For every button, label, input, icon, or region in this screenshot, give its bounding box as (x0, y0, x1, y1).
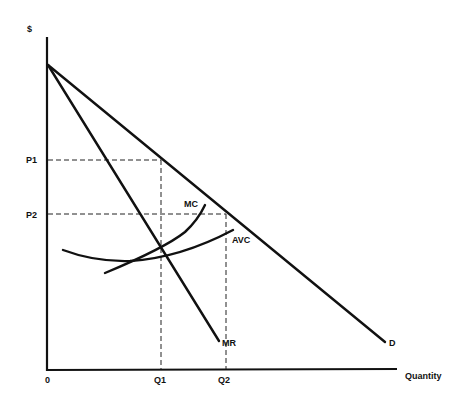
q2-label: Q2 (218, 375, 230, 385)
p1-label: P1 (26, 155, 37, 165)
p2-label: P2 (26, 210, 37, 220)
origin-label: 0 (45, 375, 50, 385)
economics-diagram: $ Quantity 0 P1 P2 Q1 Q2 D MR MC AVC (0, 0, 470, 401)
demand-curve (48, 65, 385, 342)
demand-label: D (389, 338, 396, 348)
mc-label: MC (184, 199, 198, 209)
x-axis (46, 369, 397, 370)
avc-label: AVC (232, 235, 251, 245)
y-axis-label: $ (27, 24, 32, 34)
mr-label: MR (222, 338, 236, 348)
x-axis-label: Quantity (405, 371, 442, 381)
q1-label: Q1 (154, 375, 166, 385)
average-variable-cost-curve (63, 230, 233, 261)
